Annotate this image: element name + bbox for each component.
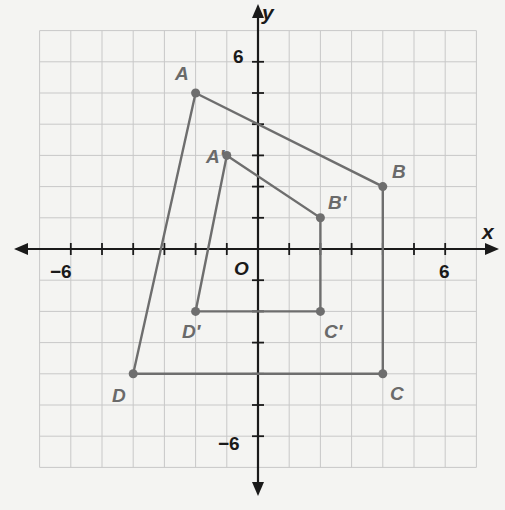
vertex-label-C-prime: C′ bbox=[324, 321, 344, 342]
x-tick-label-6: 6 bbox=[439, 261, 450, 282]
y-tick-label-6: 6 bbox=[233, 46, 244, 67]
vertex-point bbox=[129, 369, 138, 378]
vertex-point bbox=[191, 89, 200, 98]
vertex-label-A: A bbox=[174, 63, 189, 84]
vertex-label-D-prime: D′ bbox=[182, 321, 202, 342]
vertex-label-C: C bbox=[390, 383, 404, 404]
coordinate-plane: y x O −6 6 6 −6 A B C D A′ B′ C′ D′ bbox=[0, 0, 505, 510]
vertex-point bbox=[378, 182, 387, 191]
vertex-point bbox=[191, 307, 200, 316]
x-tick-label-neg6: −6 bbox=[50, 261, 72, 282]
y-axis-label: y bbox=[261, 1, 275, 24]
origin-label: O bbox=[234, 258, 249, 279]
x-axis-label: x bbox=[481, 220, 495, 243]
vertex-point bbox=[316, 213, 325, 222]
vertex-point bbox=[316, 307, 325, 316]
vertex-point bbox=[378, 369, 387, 378]
axes bbox=[14, 4, 499, 496]
y-tick-label-neg6: −6 bbox=[218, 433, 240, 454]
x-axis-left-arrow-icon bbox=[14, 243, 28, 255]
y-axis-down-arrow-icon bbox=[252, 482, 264, 496]
vertex-label-B-prime: B′ bbox=[328, 192, 348, 213]
vertex-label-D: D bbox=[112, 385, 126, 406]
x-axis-right-arrow-icon bbox=[485, 243, 499, 255]
vertex-label-B: B bbox=[392, 161, 406, 182]
vertex-label-A-prime: A′ bbox=[205, 146, 226, 167]
